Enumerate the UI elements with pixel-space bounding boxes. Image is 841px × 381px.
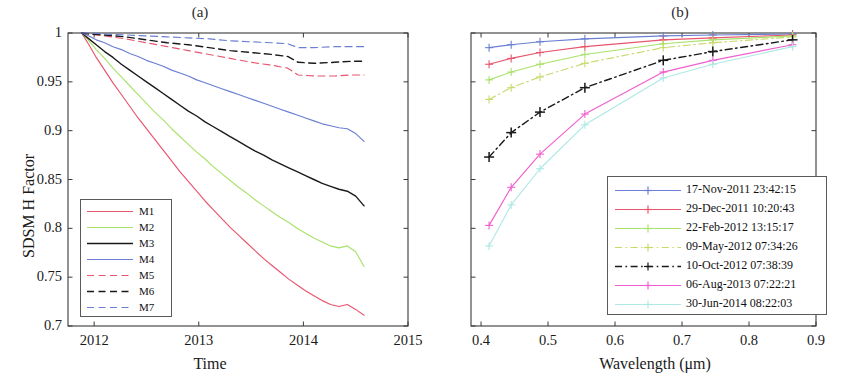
series-marker bbox=[485, 44, 493, 52]
series-marker bbox=[581, 50, 589, 58]
series-marker bbox=[536, 73, 544, 81]
legend-a-label: M2 bbox=[134, 221, 154, 233]
series-line bbox=[82, 33, 364, 63]
legend-line-swatch bbox=[614, 280, 682, 290]
legend-b-label: 10-Oct-2012 07:38:39 bbox=[682, 258, 793, 273]
legend-line-swatch bbox=[86, 222, 134, 232]
series-line bbox=[82, 33, 364, 206]
series-marker bbox=[507, 41, 515, 49]
legend-a-label: M3 bbox=[134, 237, 154, 249]
series-line bbox=[489, 40, 792, 157]
panel-b-x-tick: 0.4 bbox=[456, 332, 506, 349]
panel-a-y-tick: 0.75 bbox=[8, 268, 62, 285]
legend-b-label: 06-Aug-2013 07:22:21 bbox=[682, 277, 796, 292]
legend-b-label: 17-Nov-2011 23:42:15 bbox=[682, 182, 796, 197]
series-marker bbox=[581, 35, 589, 43]
series-marker bbox=[535, 107, 545, 117]
legend-b-label: 09-May-2012 07:34:26 bbox=[682, 239, 798, 254]
legend-line-swatch bbox=[614, 204, 682, 214]
legend-line-swatch bbox=[86, 302, 134, 312]
panel-b-x-tick: 0.9 bbox=[791, 332, 841, 349]
series-marker bbox=[485, 60, 493, 68]
panel-b-x-tick: 0.8 bbox=[724, 332, 774, 349]
legend-a-item[interactable]: M6 bbox=[86, 283, 167, 299]
legend-line-swatch bbox=[86, 206, 134, 216]
legend-b-item[interactable]: 06-Aug-2013 07:22:21 bbox=[614, 275, 821, 294]
legend-a-item[interactable]: M2 bbox=[86, 219, 167, 235]
panel-a-y-tick: 1 bbox=[8, 24, 62, 41]
series-marker bbox=[485, 95, 493, 103]
panel-b-x-tick: 0.6 bbox=[590, 332, 640, 349]
panel-a-y-tick: 0.95 bbox=[8, 73, 62, 90]
panel-a-y-tick: 0.8 bbox=[8, 219, 62, 236]
series-marker bbox=[507, 84, 515, 92]
series-line bbox=[82, 33, 364, 76]
legend-a-item[interactable]: M7 bbox=[86, 299, 167, 315]
panel-b-x-tick: 0.7 bbox=[657, 332, 707, 349]
legend-b-label: 30-Jun-2014 08:22:03 bbox=[682, 296, 792, 311]
panel-a-plot bbox=[0, 0, 425, 381]
series-marker bbox=[536, 38, 544, 46]
series-marker bbox=[659, 44, 667, 52]
legend-b-item[interactable]: 29-Dec-2011 10:20:43 bbox=[614, 199, 821, 218]
legend-a-label: M1 bbox=[134, 205, 154, 217]
series-marker bbox=[708, 47, 718, 57]
legend-b-item[interactable]: 30-Jun-2014 08:22:03 bbox=[614, 294, 821, 313]
legend-a-item[interactable]: M4 bbox=[86, 251, 167, 267]
legend-line-swatch bbox=[614, 185, 682, 195]
legend-line-swatch bbox=[86, 238, 134, 248]
panel-b: (b) Wavelength (μm) 0.40.50.60.70.80.9 1… bbox=[425, 0, 841, 381]
series-marker bbox=[485, 76, 493, 84]
panel-a: (a) SDSM H Factor Time 10.950.90.850.80.… bbox=[0, 0, 425, 381]
panel-a-y-tick: 0.9 bbox=[8, 122, 62, 139]
series-marker bbox=[581, 43, 589, 51]
legend-a-item[interactable]: M1 bbox=[86, 203, 167, 219]
legend-line-swatch bbox=[614, 261, 682, 271]
legend-line-swatch bbox=[86, 254, 134, 264]
legend-a-label: M7 bbox=[134, 301, 154, 313]
series-marker bbox=[536, 60, 544, 68]
series-marker bbox=[485, 221, 493, 229]
series-marker bbox=[485, 242, 493, 250]
legend-b-item[interactable]: 10-Oct-2012 07:38:39 bbox=[614, 256, 821, 275]
panel-a-x-tick: 2014 bbox=[273, 332, 333, 349]
panel-a-legend[interactable]: M1M2M3M4M5M6M7 bbox=[80, 199, 172, 317]
legend-b-item[interactable]: 09-May-2012 07:34:26 bbox=[614, 237, 821, 256]
legend-b-item[interactable]: 17-Nov-2011 23:42:15 bbox=[614, 180, 821, 199]
legend-line-swatch bbox=[86, 270, 134, 280]
legend-a-item[interactable]: M3 bbox=[86, 235, 167, 251]
panel-b-x-tick: 0.5 bbox=[523, 332, 573, 349]
legend-b-item[interactable]: 22-Feb-2012 13:15:17 bbox=[614, 218, 821, 237]
legend-b-label: 22-Feb-2012 13:15:17 bbox=[682, 220, 794, 235]
legend-a-label: M4 bbox=[134, 253, 154, 265]
panel-b-legend[interactable]: 17-Nov-2011 23:42:1529-Dec-2011 10:20:43… bbox=[607, 176, 827, 315]
panel-a-y-tick: 0.85 bbox=[8, 171, 62, 188]
series-line bbox=[82, 33, 364, 48]
legend-line-swatch bbox=[614, 242, 682, 252]
panel-a-x-tick: 2012 bbox=[64, 332, 124, 349]
panel-a-x-tick: 2013 bbox=[169, 332, 229, 349]
legend-a-item[interactable]: M5 bbox=[86, 267, 167, 283]
legend-line-swatch bbox=[86, 286, 134, 296]
legend-a-label: M6 bbox=[134, 285, 154, 297]
series-line bbox=[489, 35, 792, 64]
series-marker bbox=[659, 74, 667, 82]
series-marker bbox=[536, 49, 544, 57]
legend-a-label: M5 bbox=[134, 269, 154, 281]
legend-line-swatch bbox=[614, 299, 682, 309]
series-marker bbox=[507, 68, 515, 76]
series-marker bbox=[789, 43, 797, 51]
panel-a-y-tick: 0.7 bbox=[8, 317, 62, 334]
legend-b-label: 29-Dec-2011 10:20:43 bbox=[682, 201, 795, 216]
legend-line-swatch bbox=[614, 223, 682, 233]
series-marker bbox=[580, 83, 590, 93]
series-marker bbox=[581, 59, 589, 67]
figure-root: (a) SDSM H Factor Time 10.950.90.850.80.… bbox=[0, 0, 841, 381]
series-marker bbox=[658, 55, 668, 65]
series-marker bbox=[507, 54, 515, 62]
